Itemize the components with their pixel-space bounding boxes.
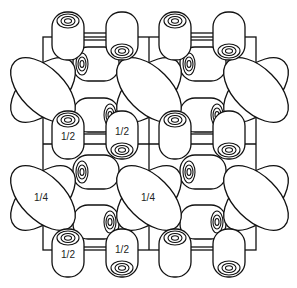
label-half: 1/2 (115, 244, 129, 255)
label-half: 1/2 (115, 126, 129, 137)
label-half: 1/2 (61, 131, 75, 142)
label-half: 1/2 (61, 249, 75, 260)
label-quarter: 1/4 (34, 192, 48, 203)
crystal-packing-diagram: 1/2 1/2 1/4 1/4 1/2 1/2 (0, 0, 297, 288)
label-quarter: 1/4 (141, 192, 155, 203)
